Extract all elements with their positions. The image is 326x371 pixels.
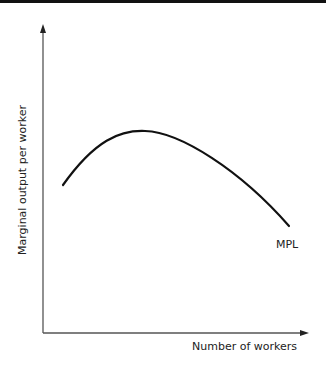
x-axis-label: Number of workers (192, 340, 297, 353)
y-axis-label: Marginal output per worker (16, 105, 29, 255)
mpl-curve-label: MPL (276, 238, 298, 251)
mpl-curve (63, 131, 289, 226)
x-axis-arrow-icon (300, 330, 309, 336)
diagram-canvas (0, 0, 326, 371)
x-axis (43, 330, 309, 336)
y-axis-arrow-icon (40, 24, 46, 33)
y-axis (40, 24, 46, 333)
